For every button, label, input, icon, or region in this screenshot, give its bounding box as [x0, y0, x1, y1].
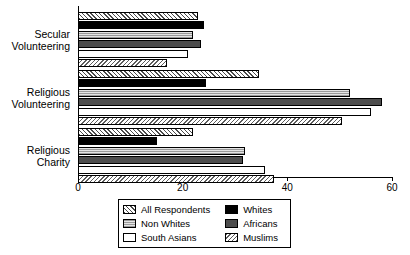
- bar: [78, 79, 206, 87]
- legend-item[interactable]: Non Whites: [123, 217, 225, 230]
- legend-label: Whites: [243, 205, 272, 215]
- bar: [78, 137, 157, 145]
- legend-label: Non Whites: [141, 219, 190, 229]
- bar: [78, 166, 265, 174]
- x-axis-tick-label: 60: [386, 182, 397, 193]
- bar: [78, 12, 198, 20]
- category-label-religious-volunteering: Religious Volunteering: [0, 86, 70, 110]
- legend-label: Africans: [243, 219, 277, 229]
- bar: [78, 31, 193, 39]
- legend-label: All Respondents: [141, 205, 210, 215]
- bar: [78, 50, 188, 58]
- x-axis-tick-label: 0: [75, 182, 81, 193]
- x-axis-tick: [392, 177, 393, 181]
- legend-swatch-icon: [225, 219, 238, 228]
- legend-column-left: All RespondentsNon WhitesSouth Asians: [123, 203, 225, 244]
- x-axis-tick-label: 20: [177, 182, 188, 193]
- bar: [78, 21, 204, 29]
- x-axis-tick: [287, 177, 288, 181]
- legend-item[interactable]: All Respondents: [123, 203, 225, 216]
- legend-column-right: WhitesAfricansMuslims: [225, 203, 286, 244]
- category-label-religious-charity: Religious Charity: [0, 144, 70, 168]
- horizontal-bar-chart: 0204060 Secular VolunteeringReligious Vo…: [0, 0, 410, 255]
- bar: [78, 147, 245, 155]
- legend-swatch-icon: [225, 205, 238, 214]
- x-axis-tick-label: 40: [282, 182, 293, 193]
- bar: [78, 59, 167, 67]
- legend-swatch-icon: [123, 219, 136, 228]
- bar: [78, 128, 193, 136]
- bar: [78, 156, 243, 164]
- legend-label: Muslims: [243, 233, 278, 243]
- legend-item[interactable]: South Asians: [123, 231, 225, 244]
- legend-swatch-icon: [123, 233, 136, 242]
- category-label-secular-volunteering: Secular Volunteering: [0, 28, 70, 52]
- legend-item[interactable]: Whites: [225, 203, 286, 216]
- legend-label: South Asians: [141, 233, 196, 243]
- legend-swatch-icon: [123, 205, 136, 214]
- bar: [78, 108, 371, 116]
- bar: [78, 175, 274, 183]
- bar: [78, 98, 382, 106]
- bar: [78, 89, 350, 97]
- chart-legend: All RespondentsNon WhitesSouth Asians Wh…: [118, 199, 291, 248]
- legend-item[interactable]: Muslims: [225, 231, 286, 244]
- plot-area: [78, 6, 392, 177]
- legend-item[interactable]: Africans: [225, 217, 286, 230]
- bar: [78, 70, 259, 78]
- legend-swatch-icon: [225, 233, 238, 242]
- bar: [78, 40, 201, 48]
- bar: [78, 117, 342, 125]
